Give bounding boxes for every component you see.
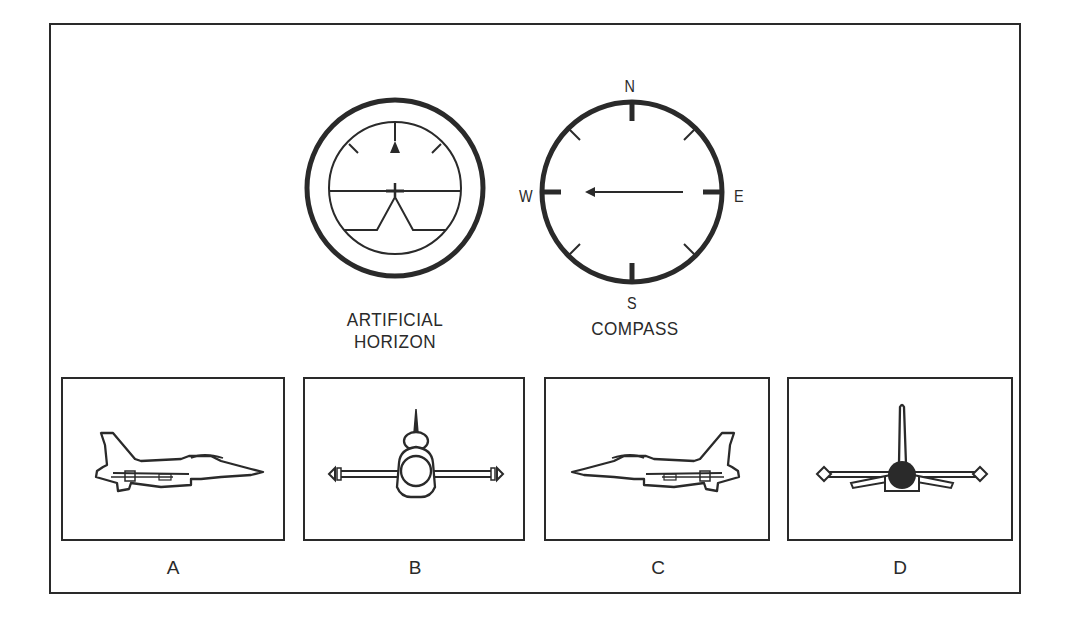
compass-icon: [535, 95, 730, 290]
artificial-horizon-label-2: HORIZON: [328, 331, 463, 353]
option-b-panel[interactable]: [303, 377, 525, 541]
jet-rear-icon: [789, 379, 1015, 543]
compass-label: COMPASS: [568, 318, 703, 340]
jet-side-right-icon: [63, 379, 287, 543]
option-b-label: B: [395, 557, 435, 579]
compass-east-label: E: [730, 186, 748, 208]
option-a-panel[interactable]: [61, 377, 285, 541]
compass-north-label: N: [621, 76, 639, 98]
jet-front-icon: [305, 379, 527, 543]
compass-south-label: S: [623, 293, 641, 315]
artificial-horizon-icon: [300, 93, 490, 283]
jet-side-left-icon: [546, 379, 772, 543]
artificial-horizon-label-1: ARTIFICIAL: [328, 309, 463, 331]
option-c-panel[interactable]: [544, 377, 770, 541]
compass-west-label: W: [517, 186, 535, 208]
option-d-panel[interactable]: [787, 377, 1013, 541]
option-d-label: D: [880, 557, 920, 579]
option-a-label: A: [153, 557, 193, 579]
option-c-label: C: [638, 557, 678, 579]
